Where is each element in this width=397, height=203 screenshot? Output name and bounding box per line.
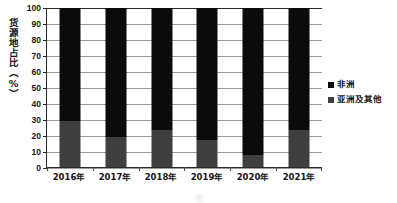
bar-segment-asia-other[interactable] (59, 121, 80, 167)
bar-segment-africa[interactable] (243, 8, 264, 155)
y-tick-label: 90 (32, 20, 41, 29)
bar-slot (184, 8, 230, 167)
plot-area (46, 8, 322, 168)
y-tick-label: 70 (32, 52, 41, 61)
bar-segment-asia-other[interactable] (151, 130, 172, 167)
y-tick-label: 80 (32, 36, 41, 45)
y-tick-label: 10 (32, 148, 41, 157)
y-tick-label: 100 (27, 4, 41, 13)
x-tickmark (139, 167, 140, 171)
y-axis-tick-labels: 0102030405060708090100 (18, 8, 44, 168)
bar-stack[interactable] (197, 8, 218, 167)
x-tickmark (47, 167, 48, 171)
bar-segment-africa[interactable] (151, 8, 172, 130)
legend-swatch-icon (328, 82, 334, 88)
bar-slot (230, 8, 276, 167)
x-tick-label: 2021年 (276, 172, 322, 186)
x-tickmark (321, 167, 322, 171)
legend-label: 非洲 (337, 80, 355, 89)
y-tick-label: 40 (32, 100, 41, 109)
x-tickmark (184, 167, 185, 171)
bar-slot (93, 8, 139, 167)
y-axis-title: 货源地占比（%） (2, 6, 18, 110)
x-tickmark (93, 167, 94, 171)
y-tick-label: 50 (32, 84, 41, 93)
figure-caption: 图 (0, 194, 397, 203)
bar-segment-africa[interactable] (197, 8, 218, 140)
bar-segment-asia-other[interactable] (105, 137, 126, 167)
bar-stack[interactable] (105, 8, 126, 167)
bar-segment-africa[interactable] (105, 8, 126, 137)
x-tick-label: 2018年 (138, 172, 184, 186)
bar-slot (139, 8, 185, 167)
x-tickmark (230, 167, 231, 171)
bar-segment-africa[interactable] (59, 8, 80, 121)
y-tick-label: 30 (32, 116, 41, 125)
x-tick-label: 2016年 (46, 172, 92, 186)
y-tick-label: 0 (36, 164, 41, 173)
y-tick-label: 20 (32, 132, 41, 141)
legend-label: 亚洲及其他 (337, 95, 382, 104)
bar-stack[interactable] (243, 8, 264, 167)
bar-stack[interactable] (151, 8, 172, 167)
x-tick-label: 2019年 (184, 172, 230, 186)
legend-swatch-icon (328, 97, 334, 103)
bars-layer (47, 8, 322, 167)
y-tick-label: 60 (32, 68, 41, 77)
stacked-bar-chart: 货源地占比（%） 0102030405060708090100 2016年201… (0, 0, 397, 203)
x-tick-label: 2017年 (92, 172, 138, 186)
bar-stack[interactable] (59, 8, 80, 167)
x-tick-label: 2020年 (230, 172, 276, 186)
bar-segment-africa[interactable] (289, 8, 310, 130)
x-axis-tick-labels: 2016年2017年2018年2019年2020年2021年 (46, 172, 322, 186)
x-tickmark (276, 167, 277, 171)
bar-slot (47, 8, 93, 167)
bar-segment-asia-other[interactable] (289, 130, 310, 167)
bar-slot (276, 8, 322, 167)
legend-item[interactable]: 非洲 (328, 80, 396, 89)
bar-segment-asia-other[interactable] (197, 140, 218, 167)
bar-stack[interactable] (289, 8, 310, 167)
bar-segment-asia-other[interactable] (243, 155, 264, 167)
chart-legend: 非洲亚洲及其他 (328, 80, 396, 110)
legend-item[interactable]: 亚洲及其他 (328, 95, 396, 104)
